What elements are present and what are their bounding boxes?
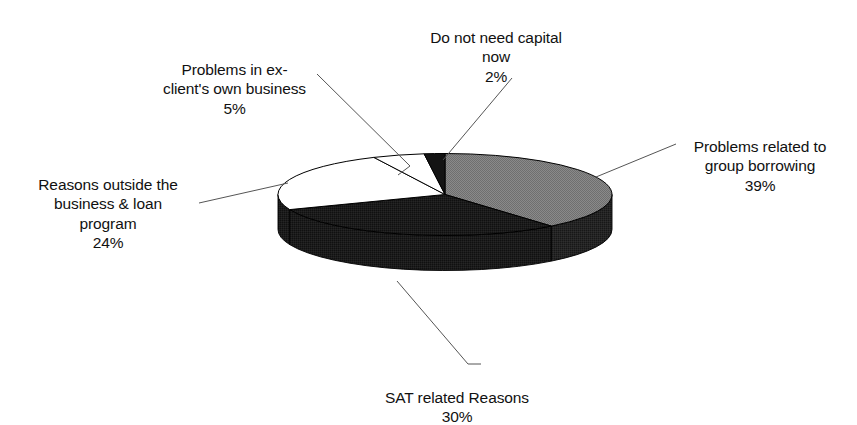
pie-label-sat-related: SAT related Reasons 30% <box>352 368 562 425</box>
pie-label-do-not-need-capital-text: Do not need capital now <box>430 29 562 66</box>
pie-label-ex-client-business-text: Problems in ex- client's own business <box>163 61 306 98</box>
leader-line-sat-related <box>397 281 481 364</box>
pie-label-do-not-need-capital: Do not need capital now 2% <box>396 8 596 106</box>
pie-label-group-borrowing-percent: 39% <box>660 176 857 196</box>
pie-label-ex-client-business: Problems in ex- client's own business 5% <box>132 40 337 138</box>
pie-label-outside-business: Reasons outside the business & loan prog… <box>8 155 208 272</box>
pie-label-group-borrowing: Problems related to group borrowing 39% <box>660 117 857 215</box>
pie-label-outside-business-text: Reasons outside the business & loan prog… <box>38 176 177 232</box>
pie-label-sat-related-percent: 30% <box>352 407 562 425</box>
pie-label-do-not-need-capital-percent: 2% <box>396 67 596 87</box>
pie-label-outside-business-percent: 24% <box>8 233 208 253</box>
pie-label-ex-client-business-percent: 5% <box>132 99 337 119</box>
pie-label-sat-related-text: SAT related Reasons <box>385 389 529 406</box>
pie-chart-figure: Do not need capital now 2% Problems in e… <box>0 0 857 425</box>
pie-top-surface <box>278 153 612 235</box>
leader-line-outside-business <box>199 183 288 203</box>
pie-label-group-borrowing-text: Problems related to group borrowing <box>694 138 827 175</box>
